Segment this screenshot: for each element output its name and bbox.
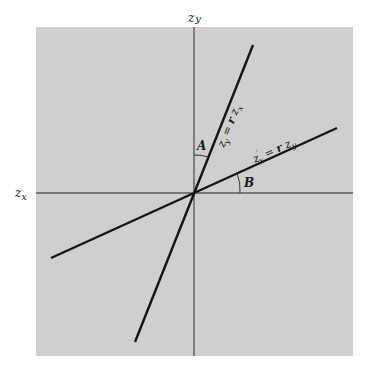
angle-label-b: B (243, 176, 254, 190)
horizontal-axis-label: zx (14, 186, 27, 202)
vertical-axis-label: zy (187, 11, 201, 25)
regression-diagram: zy zx z′y = r zx z′x = r zy A B (0, 0, 369, 372)
angle-label-a: A (196, 139, 206, 153)
